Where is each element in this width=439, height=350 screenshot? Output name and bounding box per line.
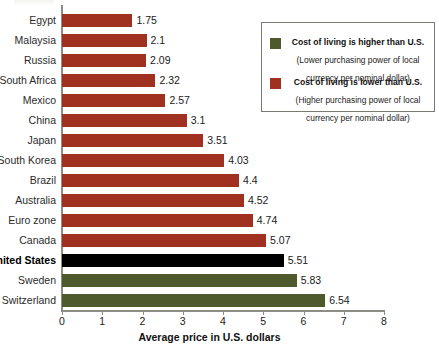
x-tick-label: 7 [332, 314, 356, 328]
bar-value-label: 1.75 [136, 10, 156, 30]
x-tick-label: 8 [372, 314, 396, 328]
bar [62, 134, 203, 147]
legend-swatch-green-icon [270, 38, 281, 49]
bar-value-label: 2.57 [169, 90, 189, 110]
bar-row: 4.03 [62, 150, 384, 170]
bar [62, 154, 224, 167]
category-label: China [0, 110, 56, 130]
bar-row: 6.54 [62, 290, 384, 310]
x-tick-label: 2 [131, 314, 155, 328]
bar [62, 274, 297, 287]
bar [62, 254, 284, 267]
bar-value-label: 4.03 [228, 150, 248, 170]
category-label: Russia [0, 50, 56, 70]
category-label: Euro zone [0, 210, 56, 230]
category-label: Sweden [0, 270, 56, 290]
bar-row: 5.07 [62, 230, 384, 250]
bar-row: 4.74 [62, 210, 384, 230]
category-label: Japan [0, 130, 56, 150]
bar [62, 214, 253, 227]
legend-text-lower: Cost of living is lower than U.S. (Highe… [286, 71, 436, 125]
x-axis-title: Average price in U.S. dollars [0, 331, 439, 343]
bar [62, 74, 155, 87]
legend: Cost of living is higher than U.S. (Lowe… [261, 22, 435, 112]
bar [62, 94, 165, 107]
legend-sub-lower-line1: (Higher purchasing power of local [296, 95, 421, 105]
legend-sub-higher-line1: (Lower purchasing power of local [297, 55, 420, 65]
legend-swatch-red-icon [270, 78, 281, 89]
category-label: Australia [0, 190, 56, 210]
x-tick-label: 1 [90, 314, 114, 328]
bar-value-label: 6.54 [329, 290, 349, 310]
bar-value-label: 2.32 [159, 70, 179, 90]
bar [62, 34, 147, 47]
bar-value-label: 3.51 [207, 130, 227, 150]
x-tick-label: 6 [292, 314, 316, 328]
bar [62, 54, 146, 67]
bar-value-label: 4.74 [257, 210, 277, 230]
category-label: South Korea [0, 150, 56, 170]
bar [62, 114, 187, 127]
category-label: Canada [0, 230, 56, 250]
bar-row: 5.51 [62, 250, 384, 270]
category-label: Malaysia [0, 30, 56, 50]
bar-value-label: 2.1 [151, 30, 166, 50]
legend-heading-higher: Cost of living is higher than U.S. [292, 37, 424, 47]
category-label: Mexico [0, 90, 56, 110]
bar [62, 14, 132, 27]
legend-sub-lower-line2: currency per nominal dollar) [306, 113, 410, 123]
x-tick-label: 3 [171, 314, 195, 328]
bar-value-label: 5.07 [270, 230, 290, 250]
x-tick-label: 0 [50, 314, 74, 328]
bar-row: 5.83 [62, 270, 384, 290]
bar [62, 194, 244, 207]
bar-row: 3.51 [62, 130, 384, 150]
bar [62, 294, 325, 307]
category-label: Brazil [0, 170, 56, 190]
category-label: Switzerland [0, 290, 56, 310]
bar-row: 4.52 [62, 190, 384, 210]
category-label: United States [0, 250, 56, 270]
bar-value-label: 5.83 [301, 270, 321, 290]
bar-value-label: 2.09 [150, 50, 170, 70]
bar-value-label: 4.4 [243, 170, 258, 190]
x-tick-label: 5 [251, 314, 275, 328]
bar [62, 234, 266, 247]
bar-value-label: 3.1 [191, 110, 206, 130]
cropped-title-artifact [14, 0, 54, 6]
category-label: Egypt [0, 10, 56, 30]
x-tick-label: 4 [211, 314, 235, 328]
bar-value-label: 4.52 [248, 190, 268, 210]
legend-item-lower: Cost of living is lower than U.S. (Highe… [262, 71, 436, 125]
bar-value-label: 5.51 [288, 250, 308, 270]
legend-heading-lower: Cost of living is lower than U.S. [294, 77, 422, 87]
bar-row: 4.4 [62, 170, 384, 190]
bar-chart: 1.752.12.092.322.573.13.514.034.44.524.7… [0, 0, 439, 350]
bar [62, 174, 239, 187]
category-label: South Africa [0, 70, 56, 90]
